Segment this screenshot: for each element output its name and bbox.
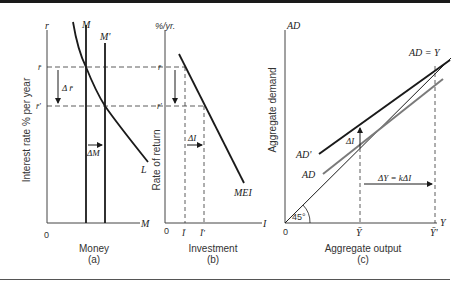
panel-b-caption: (b) — [207, 254, 219, 265]
panel-a-money-market: r M M' r̄ r̄' Δ r̄ ΔM L M 0 Money (a) In… — [21, 19, 158, 265]
panel-c-caption: (c) — [357, 254, 369, 265]
panel-a-origin: 0 — [44, 230, 49, 240]
panel-b-Ibarp-tick: Ī' — [199, 228, 206, 238]
panel-a-x-symbol: M — [140, 218, 150, 229]
panel-a-delta-r-label: Δ r̄ — [61, 83, 74, 93]
panel-c-aggregate: AD AD = Y AD' AD ΔI ΔY = kΔI 45° 0 Ȳ Ȳ' … — [267, 20, 451, 265]
panel-b-rbar-label: r̄ — [158, 63, 162, 72]
panel-a-delta-M-label: ΔM — [86, 148, 100, 158]
panel-c-x-symbol: Y — [440, 217, 447, 228]
panel-c-45-label: 45° — [292, 212, 306, 222]
panel-a-xlabel: Money — [79, 243, 109, 254]
panel-c-delta-Y-label: ΔY = kΔI — [377, 173, 412, 183]
panel-c-ADprime-label: AD' — [295, 149, 312, 160]
panel-a-Mprime-label: M' — [99, 31, 111, 42]
panel-c-ADeqY-label: AD = Y — [408, 47, 441, 58]
panel-c-Ybarp-tick: Ȳ' — [430, 227, 439, 238]
panel-c-xlabel: Aggregate output — [325, 243, 402, 254]
panel-a-caption: (a) — [88, 254, 100, 265]
panel-b-origin: 0 — [164, 226, 169, 236]
panel-a-L-label: L — [140, 164, 147, 175]
panel-b-xlabel: Investment — [189, 243, 238, 254]
panel-b-x-symbol: I — [262, 218, 267, 229]
panel-a-ylabel: Interest rate % per year — [21, 77, 32, 182]
panel-b-Ibar-tick: Ī — [181, 228, 186, 238]
panel-a-M-label: M — [81, 19, 91, 30]
panel-c-AD-label: AD — [301, 169, 316, 180]
panel-b-MEI-line — [179, 54, 244, 183]
panel-b-y-symbol: %/yr. — [155, 21, 175, 31]
panel-c-AD-line — [323, 79, 443, 174]
panel-c-delta-I-label: ΔI — [345, 136, 355, 146]
panel-b-investment: %/yr. r̄ r̄' ΔI MEI I 0 Ī Ī' Investment … — [151, 21, 267, 265]
panel-c-y-symbol: AD — [286, 20, 301, 31]
panel-c-origin: 0 — [283, 227, 288, 237]
panel-c-Ybar-tick: Ȳ — [356, 227, 363, 238]
panel-a-r-symbol: r — [45, 20, 49, 31]
panel-a-rbar-label: r̄ — [38, 63, 42, 72]
panel-c-ADprime-line — [319, 60, 450, 154]
panel-a-L-curve — [73, 22, 148, 162]
panel-b-ylabel: Rate of return — [151, 129, 162, 190]
panel-b-MEI-label: MEI — [233, 187, 252, 198]
figure-canvas: r M M' r̄ r̄' Δ r̄ ΔM L M 0 Money (a) In… — [0, 0, 470, 284]
panel-a-rbarp-label: r̄' — [36, 102, 41, 111]
panel-c-45deg-line — [285, 58, 451, 223]
panel-c-ylabel: Aggregate demand — [267, 67, 278, 152]
panel-b-rbarp-label: r̄' — [157, 102, 162, 111]
panel-b-delta-I-label: ΔI — [187, 133, 197, 143]
